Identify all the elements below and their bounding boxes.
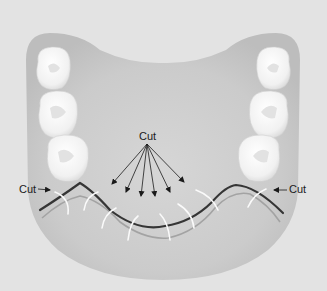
jaw-illustration xyxy=(0,0,327,291)
cut-label-left: Cut xyxy=(19,184,36,195)
cut-label-right: Cut xyxy=(289,184,306,195)
jaw-diagram: Cut Cut Cut xyxy=(0,0,327,291)
cut-label-center: Cut xyxy=(139,131,156,142)
